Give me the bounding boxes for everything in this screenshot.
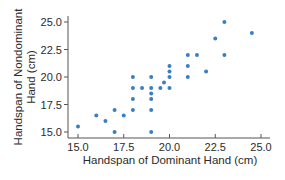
data-point	[186, 53, 190, 57]
x-tick-label: 17.5	[113, 141, 134, 153]
data-point	[131, 108, 135, 112]
data-point	[113, 130, 117, 134]
data-point	[186, 64, 190, 68]
y-axis-title: Handspan of Nondominant Hand (cm)	[12, 8, 37, 146]
data-point	[149, 75, 153, 79]
y-axis-title-line-2: Hand (cm)	[25, 50, 37, 104]
data-point	[149, 108, 153, 112]
data-point	[204, 70, 208, 74]
data-point	[149, 92, 153, 96]
data-point	[168, 86, 172, 90]
data-point	[149, 97, 153, 101]
data-point	[113, 108, 117, 112]
x-axis-title: Handspan of Dominant Hand (cm)	[83, 154, 258, 166]
y-tick-label: 20.0	[41, 71, 62, 83]
data-point	[131, 97, 135, 101]
data-point	[131, 86, 135, 90]
x-tick-label: 20.0	[159, 141, 180, 153]
scatter-chart: 15.017.520.022.525.0 15.017.520.022.525.…	[0, 0, 285, 180]
data-point	[94, 114, 98, 118]
data-point	[186, 75, 190, 79]
data-point	[76, 125, 80, 129]
data-point	[222, 20, 226, 24]
y-tick-label: 17.5	[41, 99, 62, 111]
y-axis-title-line-1: Handspan of Nondominant	[12, 8, 24, 146]
data-point	[168, 75, 172, 79]
x-tick-label: 15.0	[67, 141, 88, 153]
data-point	[149, 130, 153, 134]
x-tick-label: 25.0	[250, 141, 271, 153]
x-tick-label: 22.5	[205, 141, 226, 153]
data-point	[222, 53, 226, 57]
y-tick-label: 25.0	[41, 16, 62, 28]
data-point	[168, 64, 172, 68]
data-point	[131, 75, 135, 79]
data-point	[168, 70, 172, 74]
data-point	[140, 86, 144, 90]
data-points	[76, 20, 254, 134]
data-point	[213, 37, 217, 41]
y-axis: 15.017.520.022.525.0	[41, 16, 68, 138]
data-point	[195, 53, 199, 57]
x-axis: 15.017.520.022.525.0	[67, 134, 271, 153]
data-point	[158, 86, 162, 90]
data-point	[122, 114, 126, 118]
data-point	[162, 81, 166, 85]
data-point	[250, 31, 254, 35]
y-tick-label: 22.5	[41, 44, 62, 56]
data-point	[149, 86, 153, 90]
data-point	[103, 119, 107, 123]
y-tick-label: 15.0	[41, 126, 62, 138]
